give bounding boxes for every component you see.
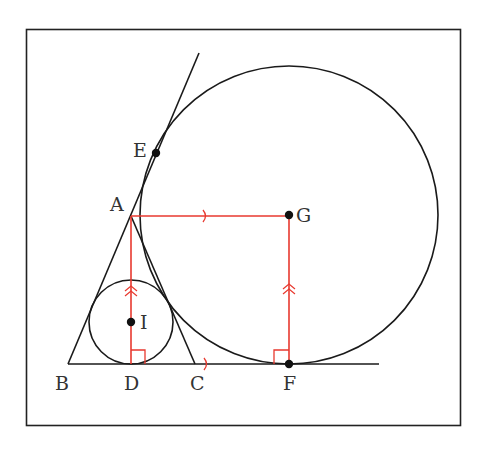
label-i: I (140, 311, 148, 333)
label-g: G (296, 204, 311, 226)
label-f: F (283, 372, 296, 394)
point-g (285, 211, 293, 219)
side-ac (131, 216, 195, 364)
label-e: E (133, 139, 147, 161)
point-f (285, 360, 293, 368)
point-e (152, 149, 160, 157)
diagram-frame (27, 30, 461, 426)
line-ba-extended (68, 53, 199, 364)
label-d: D (124, 372, 139, 394)
label-c: C (190, 372, 205, 394)
point-i (127, 318, 135, 326)
label-a: A (109, 193, 124, 215)
geometry-diagram: E A G I B D C F (0, 0, 488, 449)
label-b: B (55, 372, 69, 394)
